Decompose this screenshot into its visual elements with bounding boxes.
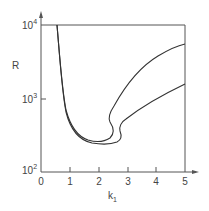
lower-curve bbox=[57, 25, 185, 144]
x-tick-label: 3 bbox=[125, 176, 131, 187]
svg-text:102: 102 bbox=[22, 163, 37, 176]
svg-text:103: 103 bbox=[22, 92, 37, 105]
y-tick-label-10e3: 103 bbox=[22, 92, 37, 105]
svg-text:104: 104 bbox=[22, 18, 37, 31]
y-tick-label-10e2: 102 bbox=[22, 163, 37, 176]
svg-text:k1: k1 bbox=[108, 190, 117, 203]
x-ticks bbox=[70, 167, 156, 172]
x-axis-label: k1 bbox=[108, 190, 117, 203]
x-tick-label: 4 bbox=[153, 176, 159, 187]
x-tick-label: 2 bbox=[96, 176, 102, 187]
y-tick-label-10e4: 104 bbox=[22, 18, 37, 31]
x-tick-label: 5 bbox=[182, 176, 188, 187]
x-tick-label: 0 bbox=[38, 176, 44, 187]
y-axis-arrow-icon bbox=[39, 11, 43, 18]
y-axis-label: R bbox=[12, 60, 19, 71]
x-tick-label: 1 bbox=[67, 176, 73, 187]
chart: 104 103 102 0 1 2 3 4 5 R k1 bbox=[0, 0, 209, 211]
x-axis-arrow-icon bbox=[192, 170, 199, 174]
